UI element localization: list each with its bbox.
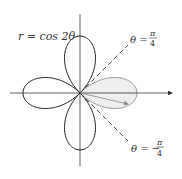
theta-neg-label: θ = − [131,143,160,154]
pi-num-neg: π [156,138,163,147]
den-neg: 4 [157,149,162,158]
pi-num-pos: π [149,29,156,38]
theta-pos-label: θ = [130,34,148,45]
polar-rose-diagram: r = cos 2θ θ = π 4 θ = − π 4 [0,0,182,179]
equation-label: r = cos 2θ [18,30,75,43]
den-pos: 4 [150,39,155,48]
